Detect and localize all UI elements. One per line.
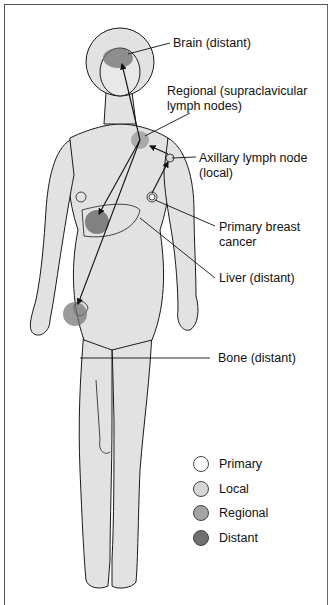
label-brain: Brain (distant): [173, 36, 251, 50]
legend: Primary Local Regional Distant: [193, 452, 268, 550]
legend-item-local: Local: [193, 477, 268, 502]
label-liver: Liver (distant): [219, 271, 295, 285]
label-primary-line1: Primary breast: [219, 220, 300, 234]
legend-item-primary: Primary: [193, 452, 268, 477]
legend-label: Local: [219, 482, 249, 496]
legend-label: Regional: [219, 506, 268, 520]
label-primary-line2: cancer: [219, 235, 257, 249]
label-bone: Bone (distant): [218, 351, 296, 365]
label-axillary-line2: (local): [199, 166, 233, 180]
label-regional-line2: lymph nodes): [167, 99, 242, 113]
primary-swatch-icon: [193, 456, 209, 472]
legend-item-distant: Distant: [193, 526, 268, 551]
legend-item-regional: Regional: [193, 501, 268, 526]
legend-label: Distant: [219, 531, 258, 545]
local-swatch-icon: [193, 481, 209, 497]
bone-site: [63, 302, 87, 326]
primary-site: [149, 194, 155, 200]
distant-swatch-icon: [193, 530, 209, 546]
label-regional-line1: Regional (supraclavicular: [167, 84, 307, 98]
brain-site: [103, 48, 133, 68]
legend-label: Primary: [219, 457, 262, 471]
regional-swatch-icon: [193, 505, 209, 521]
label-axillary-line1: Axillary lymph node: [199, 151, 307, 165]
